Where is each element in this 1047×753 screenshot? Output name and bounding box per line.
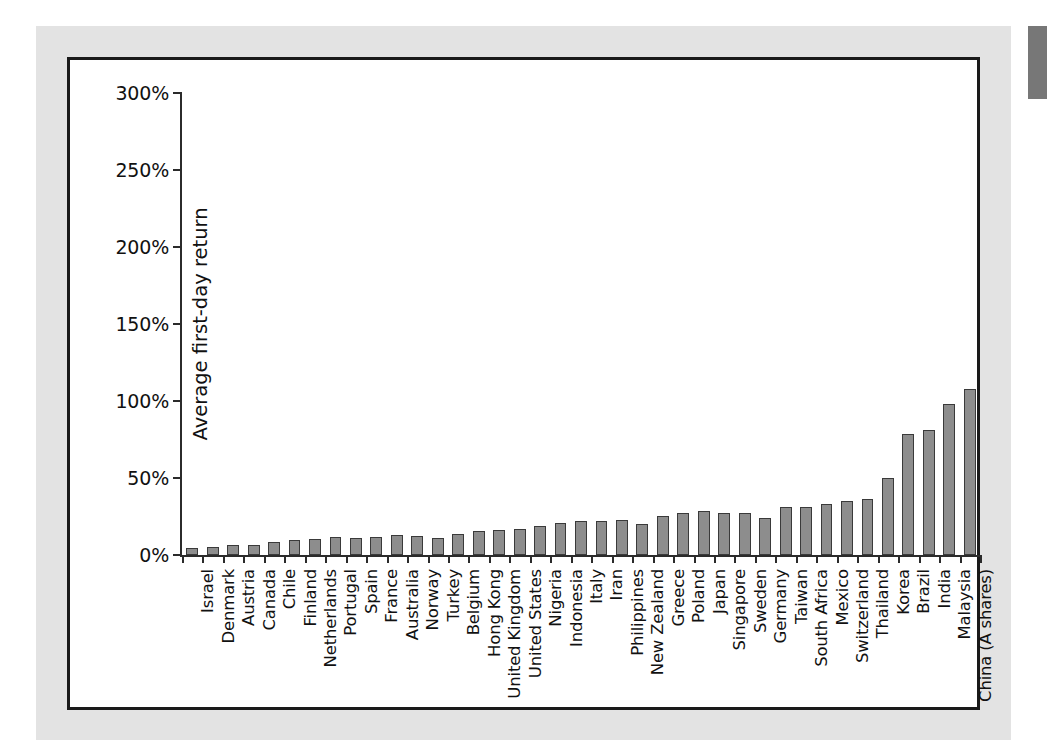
y-axis-tick — [173, 246, 182, 248]
x-axis-category-label: Brazil — [914, 569, 933, 614]
bar[interactable] — [309, 539, 321, 555]
y-axis-tick — [173, 400, 182, 402]
x-axis-tick — [919, 555, 921, 563]
y-axis-tick-label: 200% — [115, 236, 169, 258]
bar[interactable] — [821, 504, 833, 555]
bar[interactable] — [780, 507, 792, 555]
bar[interactable] — [759, 518, 771, 555]
bar-slot — [227, 93, 239, 555]
bar[interactable] — [432, 538, 444, 555]
x-axis-tick — [591, 555, 593, 563]
x-axis-category-label: France — [382, 569, 401, 623]
y-axis-tick-label: 0% — [139, 544, 169, 566]
x-axis-category-label: Philippines — [628, 569, 647, 656]
x-axis-category-label: Chile — [280, 569, 299, 609]
bar[interactable] — [268, 542, 280, 555]
bar[interactable] — [514, 529, 526, 555]
x-axis-line — [180, 555, 980, 557]
bar[interactable] — [330, 537, 342, 555]
bar[interactable] — [636, 524, 648, 555]
bar[interactable] — [473, 531, 485, 555]
x-axis-category-label: Hong Kong — [485, 569, 504, 657]
bar[interactable] — [555, 523, 567, 555]
x-axis-tick — [837, 555, 839, 563]
bar[interactable] — [800, 507, 812, 555]
bar[interactable] — [452, 534, 464, 555]
x-axis-category-label: Sweden — [751, 569, 770, 633]
bar-slot — [534, 93, 546, 555]
bar[interactable] — [616, 520, 628, 555]
bar-slot — [330, 93, 342, 555]
x-axis-tick — [960, 555, 962, 563]
y-axis-tick — [173, 323, 182, 325]
x-axis-tick — [346, 555, 348, 563]
y-axis-tick-label: 50% — [127, 467, 169, 489]
bar[interactable] — [596, 521, 608, 555]
y-axis-ticks: 0%50%100%150%200%250%300% — [180, 93, 181, 555]
bar[interactable] — [882, 478, 894, 555]
x-axis-category-label: China (A shares) — [976, 569, 995, 702]
bar[interactable] — [575, 521, 587, 555]
bar[interactable] — [370, 537, 382, 555]
x-axis-category-label: Turkey — [444, 569, 463, 622]
bar[interactable] — [207, 547, 219, 555]
x-axis-category-label: Finland — [301, 569, 320, 627]
bar[interactable] — [964, 389, 976, 555]
bar[interactable] — [411, 536, 423, 555]
x-axis-tick — [182, 555, 184, 563]
bar[interactable] — [698, 511, 710, 555]
bar[interactable] — [739, 513, 751, 555]
bar-slot — [289, 93, 301, 555]
bar[interactable] — [391, 535, 403, 555]
x-axis-tick — [796, 555, 798, 563]
x-axis-category-label: Poland — [689, 569, 708, 623]
x-axis-tick — [755, 555, 757, 563]
x-axis-category-label: India — [935, 569, 954, 609]
bar[interactable] — [677, 513, 689, 555]
bar[interactable] — [718, 513, 730, 555]
y-axis-tick-label: 250% — [115, 159, 169, 181]
bar[interactable] — [902, 434, 914, 555]
bar[interactable] — [841, 501, 853, 555]
bar[interactable] — [186, 548, 198, 555]
x-axis-category-label: Belgium — [464, 569, 483, 635]
bar[interactable] — [227, 545, 239, 555]
bar[interactable] — [350, 538, 362, 555]
bar-slot — [636, 93, 648, 555]
bar-slot — [186, 93, 198, 555]
x-axis-category-label: Malaysia — [955, 569, 974, 640]
bar-slot — [391, 93, 403, 555]
x-axis-category-label: Taiwan — [792, 569, 811, 624]
x-axis-category-label: South Africa — [812, 569, 831, 667]
bar-slot — [923, 93, 935, 555]
x-axis-tick — [202, 555, 204, 563]
bar-slot — [862, 93, 874, 555]
x-axis-tick — [980, 555, 982, 563]
x-axis-category-label: Japan — [710, 569, 729, 614]
x-axis-category-label: Spain — [362, 569, 381, 614]
figure-frame: 0%50%100%150%200%250%300% Average first-… — [67, 57, 980, 710]
x-axis-category-label: United States — [526, 569, 545, 678]
bar[interactable] — [289, 540, 301, 555]
bar[interactable] — [923, 430, 935, 555]
x-axis-category-label: Austria — [239, 569, 258, 626]
bar-slot — [821, 93, 833, 555]
bar[interactable] — [943, 404, 955, 555]
x-axis-tick — [509, 555, 511, 563]
x-axis-category-label: United Kingdom — [505, 569, 524, 699]
bar[interactable] — [493, 530, 505, 555]
bar-slot — [432, 93, 444, 555]
page-corner-marker — [1028, 26, 1047, 99]
x-axis-tick — [264, 555, 266, 563]
x-axis-tick — [816, 555, 818, 563]
x-axis-category-label: Germany — [771, 569, 790, 643]
bar[interactable] — [862, 499, 874, 555]
bar-slot — [452, 93, 464, 555]
x-axis-category-label: Norway — [423, 569, 442, 630]
bar[interactable] — [657, 516, 669, 555]
x-axis-category-label: Denmark — [219, 569, 238, 643]
bar[interactable] — [534, 526, 546, 555]
bar[interactable] — [248, 545, 260, 555]
x-axis-tick — [448, 555, 450, 563]
y-axis-tick — [173, 477, 182, 479]
